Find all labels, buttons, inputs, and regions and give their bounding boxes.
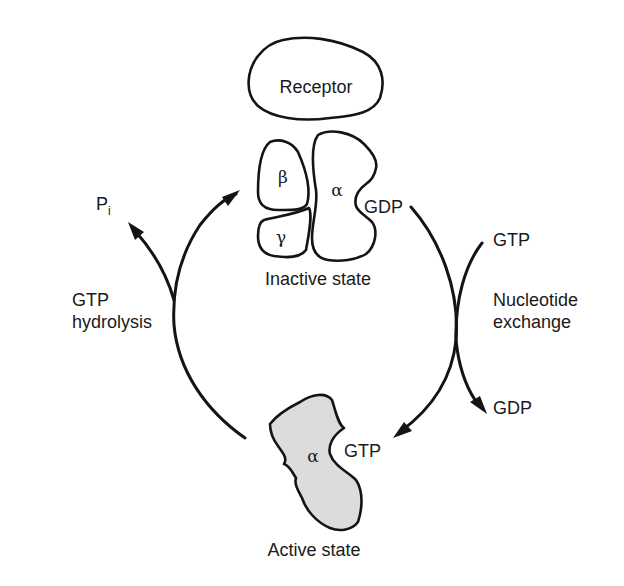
gamma-label: γ (276, 227, 286, 247)
beta-subunit-shape: β (258, 140, 308, 210)
gtp-gdp-exchange-arrow (456, 243, 487, 414)
gtp-bound-label: GTP (344, 441, 381, 461)
gdp-output-label: GDP (493, 398, 532, 418)
beta-label: β (278, 167, 288, 187)
nucleotide-exchange-label-2: exchange (493, 312, 571, 332)
alpha-subunit-active-shape: α (270, 395, 362, 530)
arrowhead-icon (222, 190, 240, 206)
gtp-input-label: GTP (493, 230, 530, 250)
alpha-active-label: α (307, 446, 319, 466)
g-protein-cycle-diagram: Receptor β γ α GDP Inactive state α GTP … (0, 0, 624, 586)
nucleotide-exchange-arrow (393, 207, 457, 438)
pi-release-arrow (128, 222, 174, 300)
inactive-state-caption: Inactive state (265, 269, 371, 289)
active-state-caption: Active state (267, 540, 360, 560)
nucleotide-exchange-label-1: Nucleotide (493, 290, 578, 310)
receptor-label: Receptor (279, 77, 352, 97)
alpha-inactive-label: α (331, 180, 343, 200)
pi-label: Pi (96, 194, 111, 218)
gamma-subunit-shape: γ (258, 208, 311, 257)
gdp-bound-label: GDP (364, 197, 403, 217)
receptor-shape: Receptor (249, 38, 383, 120)
gtp-hydrolysis-arrow (174, 190, 245, 438)
gtp-hydrolysis-label-2: hydrolysis (72, 312, 152, 332)
gtp-hydrolysis-label-1: GTP (72, 290, 109, 310)
